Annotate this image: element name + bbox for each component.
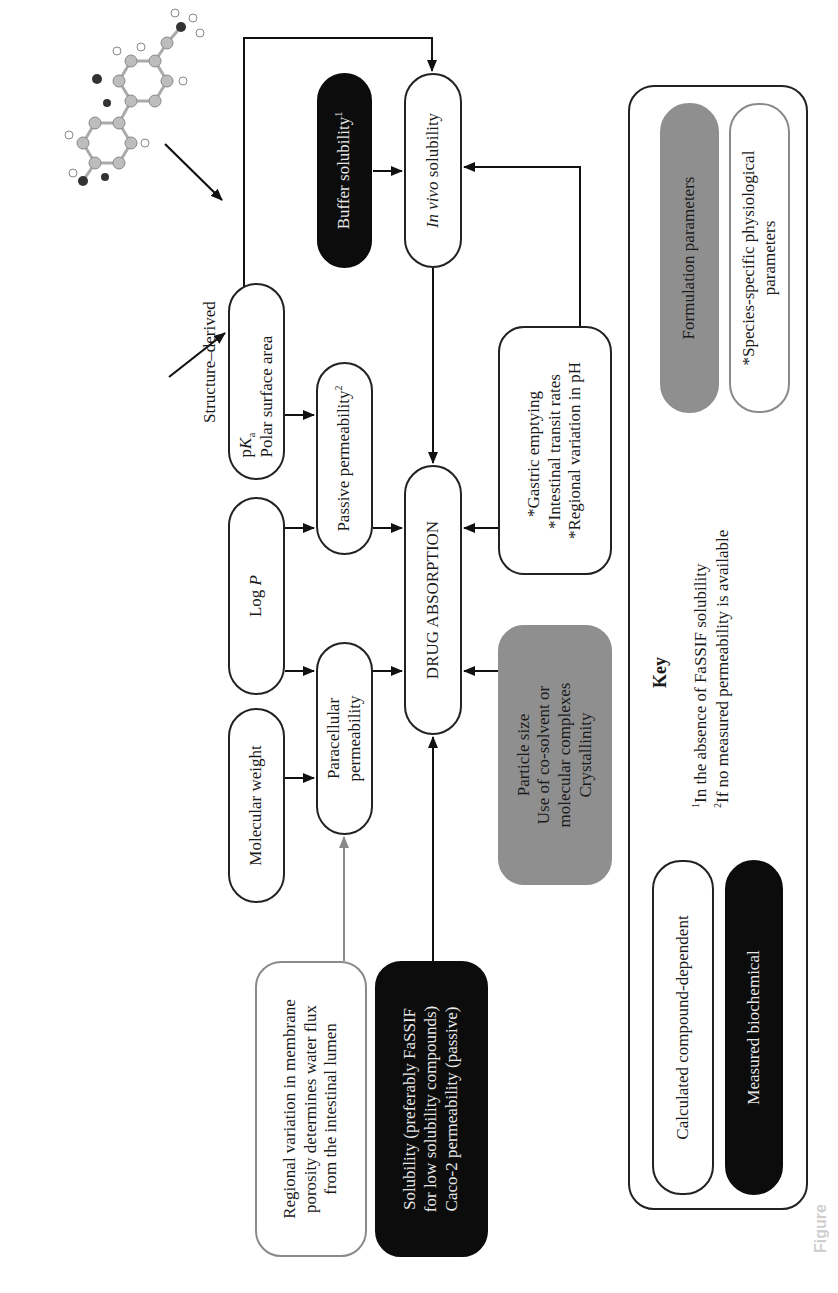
node-passive-permeability: Passive permeability2 [316, 362, 373, 555]
log-p-prefix: Log [246, 585, 265, 617]
key-calculated-swatch: Calculated compound-dependent [652, 860, 714, 1195]
footnote-1-text: In the absence of FaSSIF solubility [691, 564, 710, 803]
key-species-swatch: *Species-specific physiological paramete… [729, 103, 790, 413]
arrow-molecule-to-logp [165, 144, 222, 200]
key-calculated-label: Calculated compound-dependent [673, 915, 694, 1139]
footnote-2: 2If no measured permeability is availabl… [712, 530, 734, 808]
key-measured-label: Measured biochemical [744, 950, 765, 1104]
in-vivo-italic: In vivo [423, 181, 442, 228]
key-formulation-swatch: Formulation parameters [660, 103, 719, 413]
structure-derived-label: Structure–derived [200, 301, 220, 423]
node-in-vivo-solubility: In vivo solubility [404, 73, 462, 268]
physio-line2: *Intestinal transit rates [545, 374, 566, 529]
passive-permeability-text: Passive permeability [334, 390, 353, 531]
molecule-icon [65, 9, 204, 186]
pka-subscript: a [245, 433, 257, 438]
key-species-line1: *Species-specific physiological [739, 151, 760, 366]
key-formulation-label: Formulation parameters [679, 177, 700, 340]
node-measured-solubility-caco2: Solubility (preferably FaSSIF for low so… [375, 961, 488, 1257]
footnote-2-mark: 2 [712, 803, 723, 808]
key-species-line2: parameters [760, 151, 781, 366]
node-molecular-weight: Molecular weight [228, 708, 285, 903]
footnote-marker-2: 2 [333, 385, 344, 390]
regional-line1: Regional variation in membrane [280, 999, 301, 1219]
buffer-solubility-label: Buffer solubility1 [334, 112, 355, 230]
footnote-1-mark: 1 [690, 803, 701, 808]
formulation-line1: Particle size [514, 683, 535, 828]
in-vivo-solubility-label: In vivo solubility [423, 113, 444, 228]
physio-line1: *Gastric emptying [524, 391, 545, 517]
solubility-line3: Caco-2 permeability (passive) [442, 1006, 463, 1212]
diagram-canvas: Structure–derived Molecular weight Log P… [0, 0, 838, 1293]
node-physiological-parameters: *Gastric emptying *Intestinal transit ra… [498, 326, 612, 575]
pka-prefix: p [236, 449, 255, 458]
paracellular-line1: Paracellular [324, 696, 345, 782]
node-log-p-label: Log P [246, 575, 267, 617]
solubility-line2: for low solubility compounds) [421, 1006, 442, 1212]
footnote-2-text: If no measured permeability is available [713, 530, 732, 803]
node-formulation-parameters: Particle size Use of co-solvent or molec… [498, 625, 612, 885]
node-paracellular-permeability: Paracellular permeability [316, 642, 373, 835]
in-vivo-rest: solubility [423, 113, 442, 181]
formulation-line3: molecular complexes [555, 683, 576, 828]
key-footnotes: 1In the absence of FaSSIF solubility 2If… [690, 530, 734, 808]
footnote-marker-1: 1 [333, 112, 344, 117]
arrow-physio-to-invivo [464, 167, 580, 326]
node-drug-absorption: DRUG ABSORPTION [404, 465, 462, 735]
pka-variable: K [236, 438, 255, 449]
drug-absorption-label: DRUG ABSORPTION [423, 521, 444, 679]
figure-caption-fragment: Figure [812, 1204, 830, 1253]
regional-line3: from the intestinal lumen [321, 999, 342, 1219]
footnote-1: 1In the absence of FaSSIF solubility [690, 530, 712, 808]
passive-permeability-label: Passive permeability2 [334, 385, 355, 531]
buffer-solubility-text: Buffer solubility [334, 117, 353, 230]
polar-surface-area-label: Polar surface area [257, 336, 278, 458]
key-title: Key [650, 657, 671, 688]
physio-line3: *Regional variation in pH [565, 362, 586, 539]
formulation-line2: Use of co-solvent or [534, 683, 555, 828]
log-p-variable: P [246, 575, 265, 585]
paracellular-line2: permeability [345, 696, 366, 782]
pka-label: pKa [236, 433, 257, 458]
node-log-p: Log P [228, 497, 285, 695]
regional-line2: porosity determines water flux [301, 999, 322, 1219]
node-buffer-solubility: Buffer solubility1 [317, 73, 372, 268]
node-molecular-weight-label: Molecular weight [246, 745, 267, 865]
node-pka-polar-surface-area: pKa Polar surface area [228, 283, 285, 480]
key-measured-swatch: Measured biochemical [725, 860, 783, 1195]
solubility-line1: Solubility (preferably FaSSIF [400, 1006, 421, 1212]
formulation-line4: Crystallinity [576, 683, 597, 828]
node-regional-membrane-porosity: Regional variation in membrane porosity … [255, 961, 367, 1257]
